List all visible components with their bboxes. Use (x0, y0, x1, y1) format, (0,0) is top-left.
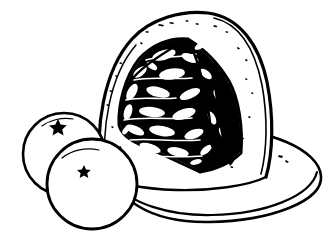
orange-front (47, 139, 137, 229)
pen-and-ink-drawing (0, 0, 333, 236)
illustration-canvas: Domed Cassata Pudding with Two Oranges o… (0, 0, 333, 236)
